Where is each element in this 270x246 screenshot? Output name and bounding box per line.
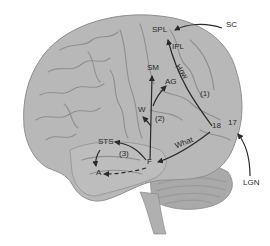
arrow-lgn-17 — [238, 134, 250, 176]
label-ag: AG — [165, 78, 177, 86]
label-ipl: IPL — [172, 43, 184, 51]
label-f: F — [147, 158, 152, 166]
label-path-3: (3) — [119, 150, 129, 158]
label-sts: STS — [98, 138, 114, 146]
label-a: A — [96, 169, 101, 177]
brain-diagram: SC SPL IPL SM AG How (1) W (2) 18 17 Wha… — [0, 0, 270, 246]
label-spl: SPL — [152, 26, 167, 34]
label-path-1: (1) — [200, 90, 210, 98]
label-lgn: LGN — [243, 179, 259, 187]
label-sm: SM — [147, 64, 159, 72]
label-path-2: (2) — [155, 115, 165, 123]
label-area-17: 17 — [228, 119, 237, 127]
label-sc: SC — [226, 21, 237, 29]
label-area-18: 18 — [212, 122, 221, 130]
label-w: W — [138, 106, 146, 114]
